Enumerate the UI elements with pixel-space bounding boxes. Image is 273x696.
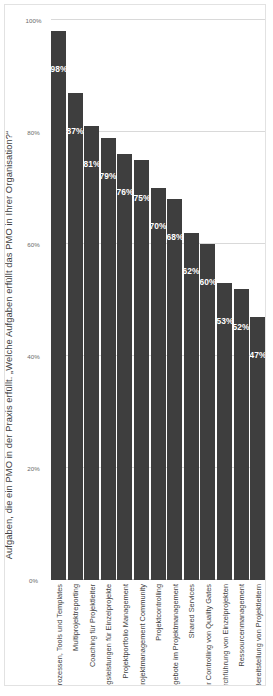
bar-4 — [101, 138, 116, 580]
tick-label-20: 20% — [27, 465, 39, 472]
bar-row: 76%Projektportfolio Management — [117, 154, 132, 580]
bar-row: 68%Bildungsangebote im Projektmanagement — [167, 199, 182, 580]
bar-6 — [134, 160, 149, 580]
tick-label-80: 80% — [27, 129, 39, 136]
category-label: Qualitätsmanagement, z. B. über Controll… — [203, 584, 212, 686]
tick-label-0: 0% — [29, 577, 38, 584]
bar-row: 98%Entwicklung von Methoden, Prozessen, … — [51, 31, 66, 580]
bar-row: 70%Projektcontrolling — [151, 188, 166, 580]
bar-row: 47%Bereitstellung von Projektleitern — [250, 317, 265, 580]
bar-value-label: 47% — [249, 349, 266, 359]
bar-8 — [167, 199, 182, 580]
category-label: Übernahme der Verantwortung für die Durc… — [220, 584, 229, 686]
category-label: Multiprojektreporting — [71, 584, 80, 651]
bar-row: 81%Coaching für Projektleiter — [84, 126, 99, 580]
bar-1 — [51, 31, 66, 580]
bar-value-label: 79% — [100, 170, 117, 180]
bar-row: 60%Qualitätsmanagement, z. B. über Contr… — [200, 244, 215, 580]
category-label: Bereitstellung von Unterstützungsleistun… — [104, 584, 113, 686]
plot-area: 0%20%40%60%80%100% 98%Entwicklung von Me… — [4, 4, 266, 686]
bar-value-label: 75% — [133, 193, 150, 203]
bar-2 — [68, 93, 83, 580]
category-label: Projektportfolio Management — [120, 584, 129, 679]
category-label: Entwicklung von Methoden, Prozessen, Too… — [54, 584, 63, 686]
bar-row: 52%Ressourcenmanagement — [234, 289, 249, 580]
bar-value-label: 81% — [83, 159, 100, 169]
bar-7 — [151, 188, 166, 580]
bar-value-label: 76% — [117, 187, 134, 197]
bar-value-label: 87% — [67, 125, 84, 135]
bar-10 — [200, 244, 215, 580]
bar-value-label: 60% — [200, 277, 217, 287]
category-label: Shared Services — [187, 584, 196, 638]
tick-label-60: 60% — [27, 241, 39, 248]
category-label: Coaching für Projektleiter — [87, 584, 96, 667]
rotated-chart-canvas: Aufgaben, die ein PMO in der Praxis erfü… — [4, 4, 266, 686]
bar-row: 75%Aufbau und Weiterentwicklung einer Pr… — [134, 160, 149, 580]
category-label: Aufbau und Weiterentwicklung einer Proje… — [137, 584, 146, 686]
bar-value-label: 53% — [216, 316, 233, 326]
category-label: Ressourcenmanagement — [237, 584, 246, 667]
bar-row: 53%Übernahme der Verantwortung für die D… — [217, 283, 232, 580]
bar-11 — [217, 283, 232, 580]
category-label: Bereitstellung von Projektleitern — [253, 584, 262, 686]
category-label: Bildungsangebote im Projektmanagement — [170, 584, 179, 686]
bar-value-label: 62% — [183, 265, 200, 275]
category-label: Projektcontrolling — [154, 584, 163, 641]
bar-3 — [84, 126, 99, 580]
bar-value-label: 52% — [233, 321, 250, 331]
gridline-100 — [51, 19, 266, 20]
tick-label-100: 100% — [26, 17, 42, 24]
bar-value-label: 70% — [150, 221, 167, 231]
bar-row: 87%Multiprojektreporting — [68, 93, 83, 580]
bar-row: 79%Bereitstellung von Unterstützungsleis… — [101, 138, 116, 580]
chart-frame: Aufgaben, die ein PMO in der Praxis erfü… — [4, 4, 266, 686]
bar-value-label: 98% — [50, 64, 67, 74]
tick-label-40: 40% — [27, 353, 39, 360]
bar-12 — [234, 289, 249, 580]
bar-row: 62%Shared Services — [184, 233, 199, 580]
bar-9 — [184, 233, 199, 580]
bar-5 — [117, 154, 132, 580]
bar-value-label: 68% — [166, 232, 183, 242]
